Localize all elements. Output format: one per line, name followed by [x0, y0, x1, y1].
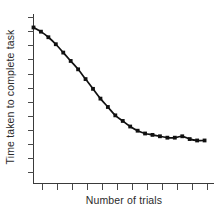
data-point-marker — [76, 67, 80, 71]
data-point-marker — [188, 137, 192, 141]
data-point-marker — [99, 97, 103, 101]
data-series-group — [32, 26, 207, 143]
data-point-marker — [69, 59, 73, 63]
data-point-marker — [173, 136, 177, 140]
data-point-marker — [195, 139, 199, 143]
data-point-marker — [121, 119, 125, 123]
data-point-marker — [143, 132, 147, 136]
data-point-marker — [113, 113, 117, 117]
data-point-marker — [136, 129, 140, 133]
series-line-path — [34, 27, 205, 140]
data-point-marker — [128, 125, 132, 129]
series-markers — [32, 26, 207, 143]
data-point-marker — [32, 26, 36, 30]
chart-axes — [34, 14, 215, 184]
data-point-marker — [61, 51, 65, 55]
y-axis-ticks — [28, 18, 34, 173]
data-point-marker — [46, 35, 50, 39]
x-axis-ticks — [42, 184, 207, 190]
data-point-marker — [39, 30, 43, 34]
y-axis-label: Time taken to complete task — [4, 29, 16, 165]
data-point-marker — [180, 134, 184, 138]
data-point-marker — [203, 139, 207, 143]
data-point-marker — [151, 133, 155, 137]
chart-plot-area: Number of trials Time taken to complete … — [0, 0, 220, 213]
data-point-marker — [165, 136, 169, 140]
data-point-marker — [54, 42, 58, 46]
data-point-marker — [91, 87, 95, 91]
x-axis-label: Number of trials — [86, 194, 163, 206]
learning-curve-chart: Number of trials Time taken to complete … — [0, 0, 220, 213]
data-point-marker — [158, 134, 162, 138]
data-point-marker — [84, 77, 88, 81]
data-point-marker — [106, 105, 110, 109]
